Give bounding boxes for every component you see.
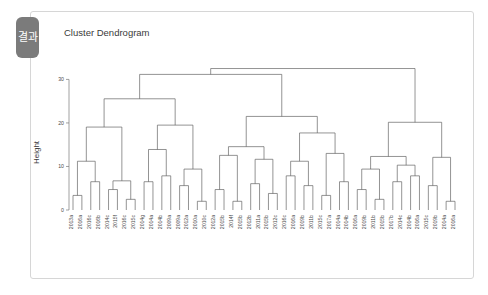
leaf-label: 2015f xyxy=(112,214,118,227)
leaf-label: 2016a xyxy=(450,215,456,229)
dendrogram-link xyxy=(304,186,313,210)
dendrogram-link xyxy=(357,190,366,210)
dendrogram-link xyxy=(371,156,407,169)
leaf-label: 2016a xyxy=(290,215,296,229)
dendrogram-link xyxy=(157,125,193,169)
dendrogram-link xyxy=(144,182,153,210)
dendrogram-link xyxy=(91,182,100,210)
dendrogram-link xyxy=(233,201,242,210)
dendrogram-link xyxy=(109,190,118,210)
dendrogram-link xyxy=(220,155,238,201)
dendrogram-link xyxy=(73,195,82,210)
dendrogram-link xyxy=(104,99,175,127)
dendrogram-link xyxy=(291,161,309,185)
leaf-label: 2012a xyxy=(210,215,216,229)
leaf-label: 2017b xyxy=(388,215,394,229)
y-axis: 0102030 xyxy=(58,76,69,213)
dendrogram-link xyxy=(77,161,95,195)
dendrogram-link xyxy=(149,149,167,181)
leaf-label: 2014b xyxy=(343,215,349,229)
y-axis-tick-label: 10 xyxy=(58,163,64,169)
result-card-panel: Cluster Dendrogram Height 0102030 2013a2… xyxy=(30,11,474,279)
dendrogram-link xyxy=(286,176,295,210)
dendrogram-link xyxy=(228,147,264,160)
leaf-label: 2015c xyxy=(130,215,136,229)
leaf-label: 2014c xyxy=(104,215,110,229)
result-tab[interactable]: 결과 xyxy=(16,17,39,58)
dendrogram-link xyxy=(388,122,441,157)
leaf-label: 2015b xyxy=(379,215,385,229)
dendrogram-link xyxy=(340,182,349,210)
leaf-label: 2009a xyxy=(166,215,172,229)
leaf-labels: 2013a2016a2016c2016b2014c2015f2016c2015c… xyxy=(68,214,456,229)
dendrogram-link xyxy=(140,74,282,116)
dendrogram-link xyxy=(326,153,344,195)
dendrogram-link xyxy=(433,157,451,201)
leaf-label: 2016c xyxy=(121,215,127,229)
leaf-label: 2011a xyxy=(255,215,261,229)
leaf-label: 2014c xyxy=(397,215,403,229)
screen-root: 결과 Cluster Dendrogram Height 0102030 201… xyxy=(0,0,488,295)
leaf-label: 2019b xyxy=(299,215,305,229)
result-tab-label: 결과 xyxy=(18,32,38,44)
leaf-label: 2014a xyxy=(441,215,447,229)
leaf-label: 2011b xyxy=(370,215,376,229)
dendrogram-link xyxy=(184,169,202,201)
dendrogram-link xyxy=(255,159,273,193)
dendrogram-link xyxy=(375,199,384,210)
leaf-label: 2014g xyxy=(139,215,145,229)
dendrogram-link xyxy=(446,201,455,210)
dendrogram-link xyxy=(86,127,122,181)
dendrogram-link xyxy=(397,165,415,182)
leaf-label: 2013a xyxy=(68,215,74,229)
leaf-label: 2012a xyxy=(183,215,189,229)
leaf-label: 2009a xyxy=(175,215,181,229)
dendrogram-link xyxy=(268,193,277,210)
dendrogram-link xyxy=(162,176,171,210)
leaf-label: 2014a xyxy=(335,215,341,229)
dendrogram-link xyxy=(322,195,331,210)
leaf-label: 2017a xyxy=(326,215,332,229)
y-axis-tick-label: 20 xyxy=(58,120,64,126)
leaf-label: 2016a xyxy=(352,215,358,229)
dendrogram-link xyxy=(428,186,437,210)
leaf-label: 2016a xyxy=(414,215,420,229)
leaf-label: 2016b xyxy=(95,215,101,229)
leaf-label: 2015b xyxy=(237,215,243,229)
dendrogram-link xyxy=(180,186,189,210)
dendrogram-link xyxy=(251,184,260,210)
dendrogram-link xyxy=(300,133,336,161)
leaf-label: 2012b xyxy=(246,215,252,229)
leaf-label: 2016c xyxy=(86,215,92,229)
dendrogram-link xyxy=(362,169,380,199)
leaf-label: 2014a xyxy=(148,215,154,229)
dendrogram-link xyxy=(126,199,135,210)
leaf-label: 2010a xyxy=(192,215,198,229)
leaf-label: 2012c xyxy=(272,215,278,229)
leaf-label: 2015b xyxy=(219,215,225,229)
dendrogram-plot: 0102030 2013a2016a2016c2016b2014c2015f20… xyxy=(31,12,475,280)
leaf-label: 2014b xyxy=(157,215,163,229)
dendrogram-link xyxy=(215,190,224,210)
leaf-label: 2014f xyxy=(228,214,234,227)
leaf-label: 2019b xyxy=(361,215,367,229)
dendrogram-tree xyxy=(73,69,455,210)
y-axis-tick-label: 0 xyxy=(61,207,64,213)
dendrogram-link xyxy=(197,201,206,210)
leaf-label: 2015c xyxy=(423,215,429,229)
dendrogram-link xyxy=(113,181,131,200)
leaf-label: 2014b xyxy=(406,215,412,229)
leaf-label: 2015b xyxy=(263,215,269,229)
leaf-label: 2010c xyxy=(201,215,207,229)
dendrogram-link xyxy=(393,182,402,210)
leaf-label: 2016a xyxy=(77,215,83,229)
dendrogram-link xyxy=(411,176,420,210)
dendrogram-link xyxy=(211,69,415,123)
dendrogram-link xyxy=(246,116,317,146)
leaf-label: 2015c xyxy=(317,215,323,229)
leaf-label: 2016c xyxy=(281,215,287,229)
y-axis-tick-label: 30 xyxy=(58,76,64,82)
leaf-label: 2019b xyxy=(432,215,438,229)
leaf-label: 2011b xyxy=(308,215,314,229)
